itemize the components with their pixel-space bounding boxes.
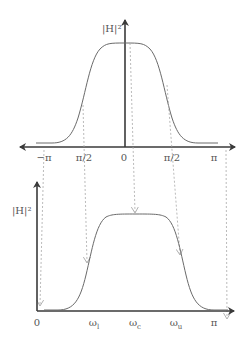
bottom-tick-pi: π <box>211 318 218 328</box>
top-tick-neg-half-pi: π/2 <box>76 153 92 163</box>
top-response-curve <box>36 43 218 143</box>
bottom-tick-omega-c: ωc <box>129 318 141 331</box>
frequency-mapping-diagram <box>0 0 246 343</box>
omega-l-main: ω <box>89 317 97 328</box>
bottom-tick-omega-u: ωu <box>170 318 183 331</box>
omega-l-sub: l <box>97 323 99 331</box>
mapping-guides <box>40 43 227 318</box>
omega-u-sub: u <box>178 323 183 331</box>
top-y-axis-label: |H|² <box>102 24 121 34</box>
omega-c-main: ω <box>129 317 137 328</box>
omega-u-main: ω <box>170 317 178 328</box>
bottom-tick-omega-l: ωl <box>89 318 99 331</box>
top-tick-pi: π <box>211 153 218 163</box>
guide-zero <box>130 43 135 212</box>
guide-pi <box>226 150 227 318</box>
bottom-plot <box>37 182 234 311</box>
top-plot <box>20 20 235 147</box>
omega-c-sub: c <box>137 323 141 331</box>
top-tick-zero: 0 <box>121 153 127 163</box>
top-tick-half-pi: π/2 <box>164 153 180 163</box>
top-tick-neg-pi: −π <box>37 153 52 163</box>
bottom-tick-zero: 0 <box>34 318 40 328</box>
guide-neg-half-pi <box>83 105 87 262</box>
bottom-response-curve <box>44 214 228 310</box>
guide-neg-pi <box>40 150 44 305</box>
bottom-y-axis-label: |H|² <box>12 206 31 216</box>
